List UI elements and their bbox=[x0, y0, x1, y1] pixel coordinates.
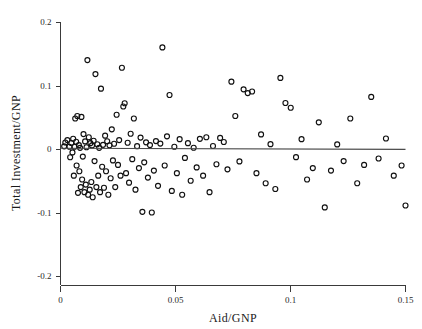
x-tick-group: 00.050.10.15 bbox=[58, 286, 414, 306]
data-point bbox=[110, 158, 115, 163]
data-point bbox=[78, 185, 83, 190]
data-point bbox=[108, 176, 113, 181]
data-point bbox=[391, 173, 396, 178]
data-point bbox=[185, 141, 190, 146]
data-point bbox=[221, 140, 226, 145]
y-tick-label: -0.2 bbox=[37, 271, 51, 281]
data-point bbox=[112, 141, 117, 146]
plot-canvas: 0.20.10-0.1-0.2 00.050.10.15 Aid/GNP Tot… bbox=[0, 0, 422, 329]
data-point bbox=[164, 134, 169, 139]
data-point bbox=[127, 180, 132, 185]
data-point bbox=[84, 145, 89, 150]
data-point bbox=[81, 132, 86, 137]
data-point bbox=[138, 135, 143, 140]
data-point bbox=[70, 150, 75, 155]
data-point bbox=[299, 137, 304, 142]
data-point bbox=[263, 181, 268, 186]
data-point bbox=[174, 171, 179, 176]
y-tick-label: 0.2 bbox=[40, 17, 51, 27]
data-point bbox=[135, 144, 140, 149]
y-tick-group: 0.20.10-0.1-0.2 bbox=[37, 17, 60, 281]
data-point bbox=[136, 166, 141, 171]
data-point bbox=[85, 58, 90, 63]
data-point bbox=[316, 120, 321, 125]
x-axis-title: Aid/GNP bbox=[209, 311, 257, 325]
scatter-plot-figure: 0.20.10-0.1-0.2 00.050.10.15 Aid/GNP Tot… bbox=[0, 0, 422, 329]
data-point bbox=[233, 113, 238, 118]
data-point bbox=[90, 195, 95, 200]
data-point bbox=[71, 173, 76, 178]
data-point bbox=[214, 162, 219, 167]
data-point bbox=[341, 159, 346, 164]
x-tick-label: 0.1 bbox=[285, 295, 296, 305]
data-point bbox=[162, 163, 167, 168]
data-point bbox=[87, 187, 92, 192]
data-point bbox=[92, 159, 97, 164]
data-point bbox=[194, 165, 199, 170]
y-tick-label: 0.1 bbox=[40, 81, 51, 91]
data-point bbox=[98, 86, 103, 91]
data-point bbox=[335, 142, 340, 147]
data-point bbox=[125, 140, 130, 145]
data-point bbox=[169, 188, 174, 193]
y-tick-label: -0.1 bbox=[37, 208, 51, 218]
data-point bbox=[348, 116, 353, 121]
data-point bbox=[128, 131, 133, 136]
y-axis-title: Total Investment/GNP bbox=[9, 95, 23, 211]
x-axis-group: 00.050.10.15 bbox=[58, 286, 414, 306]
data-point bbox=[74, 163, 79, 168]
data-point bbox=[182, 155, 187, 160]
data-point bbox=[188, 178, 193, 183]
data-point bbox=[71, 136, 76, 141]
data-point bbox=[68, 155, 73, 160]
data-point bbox=[83, 182, 88, 187]
data-point bbox=[80, 154, 85, 159]
data-point bbox=[98, 190, 103, 195]
data-point bbox=[177, 137, 182, 142]
data-point bbox=[180, 192, 185, 197]
data-point bbox=[156, 183, 161, 188]
data-point bbox=[288, 105, 293, 110]
data-point bbox=[204, 135, 209, 140]
data-point bbox=[403, 203, 408, 208]
data-point bbox=[322, 205, 327, 210]
data-point bbox=[75, 190, 80, 195]
data-point bbox=[147, 143, 152, 148]
data-point bbox=[130, 157, 135, 162]
data-point bbox=[124, 171, 129, 176]
data-point bbox=[104, 169, 109, 174]
x-tick-label: 0 bbox=[58, 295, 63, 305]
data-point bbox=[113, 185, 118, 190]
x-tick-label: 0.05 bbox=[168, 295, 184, 305]
y-axis-group: 0.20.10-0.1-0.2 bbox=[37, 17, 60, 285]
data-point bbox=[305, 177, 310, 182]
data-point bbox=[77, 169, 82, 174]
data-point bbox=[399, 163, 404, 168]
data-point bbox=[229, 79, 234, 84]
data-point bbox=[94, 185, 99, 190]
data-point bbox=[101, 185, 106, 190]
data-point bbox=[103, 133, 108, 138]
data-point bbox=[158, 141, 163, 146]
data-point bbox=[237, 159, 242, 164]
data-point bbox=[131, 116, 136, 121]
data-point bbox=[133, 187, 138, 192]
data-point bbox=[197, 136, 202, 141]
data-point bbox=[114, 112, 119, 117]
data-point bbox=[273, 187, 278, 192]
data-point bbox=[116, 162, 121, 167]
x-tick-label: 0.15 bbox=[398, 295, 414, 305]
data-point bbox=[106, 192, 111, 197]
data-point bbox=[151, 168, 156, 173]
data-point bbox=[328, 168, 333, 173]
data-point bbox=[268, 142, 273, 147]
data-point bbox=[369, 94, 374, 99]
data-point bbox=[118, 173, 123, 178]
data-point bbox=[145, 175, 150, 180]
data-point bbox=[362, 162, 367, 167]
data-point bbox=[259, 132, 264, 137]
data-point bbox=[149, 210, 154, 215]
data-point bbox=[254, 171, 259, 176]
data-point bbox=[294, 155, 299, 160]
data-point bbox=[142, 160, 147, 165]
